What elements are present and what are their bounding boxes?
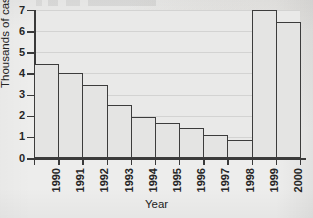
cropped-text-artifact [36,0,156,6]
y-axis-title: Thousands of cases [0,0,11,88]
x-tick [131,158,132,165]
y-tick-label: 6 [11,26,25,37]
y-tick [27,95,34,96]
x-tick-label-1992: 1992 [99,168,110,192]
x-tick-label-1990: 1990 [51,168,62,192]
x-tick [252,158,253,165]
y-tick [27,73,34,74]
y-tick-label: 1 [11,131,25,142]
plot-area [34,10,300,158]
bar-1993 [107,105,132,158]
x-tick [276,158,277,165]
y-tick-label: 7 [11,5,25,16]
x-axis-title: Year [0,198,313,210]
x-tick-label-1991: 1991 [75,168,86,192]
x-tick-label-1997: 1997 [220,168,231,192]
bar-1999 [252,10,277,158]
y-tick-label: 5 [11,47,25,58]
x-tick-label-1999: 1999 [269,168,280,192]
x-tick [300,158,301,165]
bar-1994 [131,117,156,158]
x-tick [34,158,35,165]
x-tick-label-1993: 1993 [124,168,135,192]
x-tick [179,158,180,165]
y-tick [27,52,34,53]
y-tick-label: 4 [11,68,25,79]
x-tick [155,158,156,165]
bar-1998 [227,140,252,158]
x-tick-label-1995: 1995 [172,168,183,192]
x-tick-label-1994: 1994 [148,168,159,192]
x-axis-line [27,158,306,160]
bar-1995 [155,123,180,158]
bar-1991 [58,73,83,158]
x-tick [82,158,83,165]
x-tick-label-1996: 1996 [196,168,207,192]
y-tick-label: 0 [11,153,25,164]
y-tick-label: 3 [11,89,25,100]
x-tick [107,158,108,165]
y-tick [27,158,34,159]
y-tick-label: 2 [11,110,25,121]
bar-1997 [203,135,228,158]
bar-1992 [82,85,107,158]
x-tick [58,158,59,165]
bar-2000 [276,22,301,158]
bar-1990 [34,64,59,158]
bar-1996 [179,128,204,158]
y-tick [27,31,34,32]
bar-chart: 01234567 1990199119921993199419951996199… [0,0,313,218]
x-tick [203,158,204,165]
y-tick [27,116,34,117]
x-tick [227,158,228,165]
y-tick [27,137,34,138]
y-tick [27,10,34,11]
x-tick-label-2000: 2000 [293,168,304,192]
x-tick-label-1998: 1998 [245,168,256,192]
